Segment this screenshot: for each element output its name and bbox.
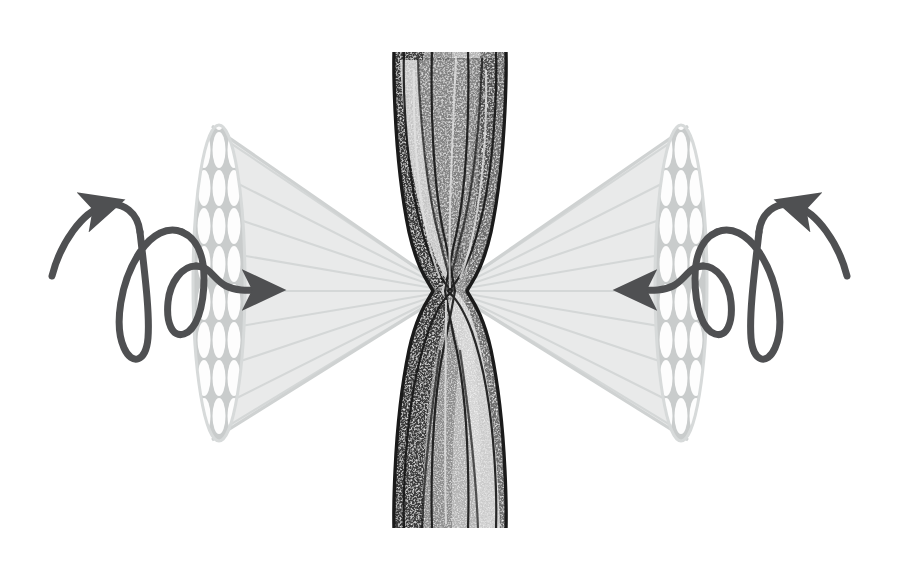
left-cone-hotspot (200, 120, 455, 445)
right-cone-hotspot (450, 120, 705, 445)
figure-root: Twisted fiber bundle illuminated by two … (0, 0, 899, 564)
diagram-canvas (0, 0, 899, 564)
